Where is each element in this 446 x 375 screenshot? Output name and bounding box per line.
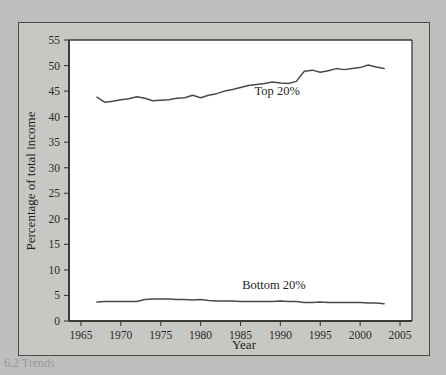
figure-caption-clipped: 6.2 Trends (0, 359, 446, 375)
x-tick-label: 1965 (69, 329, 92, 341)
x-axis-title: Year (232, 337, 257, 352)
y-tick-label: 30 (49, 162, 61, 174)
y-tick-label: 35 (49, 136, 61, 148)
y-tick-label: 15 (49, 238, 61, 250)
x-tick-label: 1995 (309, 329, 332, 341)
x-tick-label: 1990 (269, 329, 292, 341)
series-label-bottom-20: Bottom 20% (242, 278, 306, 292)
y-axis-title: Percentage of total income (23, 111, 38, 250)
y-tick-label: 5 (54, 289, 60, 301)
y-tick-label: 50 (49, 60, 61, 72)
y-tick-label: 10 (49, 264, 61, 276)
y-tick-label: 55 (49, 34, 61, 46)
income-distribution-line-chart: 0510152025303540455055 19651970197519801… (19, 23, 429, 355)
x-tick-label: 1970 (109, 329, 132, 341)
x-tick-label: 2005 (389, 329, 412, 341)
figure-panel: 0510152025303540455055 19651970197519801… (18, 22, 430, 356)
plot-background (69, 40, 412, 321)
x-tick-label: 1980 (189, 329, 212, 341)
y-tick-label: 45 (49, 85, 61, 97)
y-tick-label: 25 (49, 187, 61, 199)
caption-text: 6.2 Trends (4, 359, 55, 371)
y-tick-label: 40 (49, 111, 61, 123)
x-tick-label: 2000 (349, 329, 372, 341)
series-label-top-20: Top 20% (255, 84, 300, 98)
y-axis-tick-labels: 0510152025303540455055 (49, 34, 61, 327)
y-tick-label: 20 (49, 213, 61, 225)
y-tick-label: 0 (54, 315, 60, 327)
figure-root: 0510152025303540455055 19651970197519801… (0, 0, 446, 375)
x-tick-label: 1975 (149, 329, 172, 341)
